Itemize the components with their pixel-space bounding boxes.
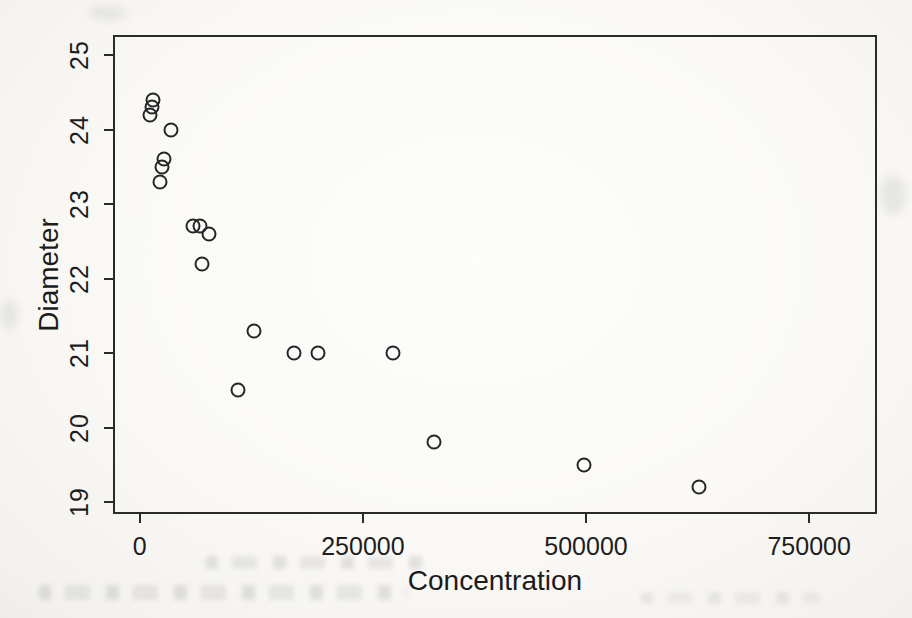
- plot-area: [113, 35, 877, 514]
- y-axis-tick-label: 24: [67, 115, 92, 145]
- data-point: [692, 480, 707, 495]
- y-axis-tick: [104, 352, 113, 354]
- x-axis-title: Concentration: [408, 567, 582, 595]
- scan-artifact: [640, 592, 820, 604]
- y-axis-tick: [104, 427, 113, 429]
- data-point: [247, 323, 262, 338]
- y-axis-tick: [104, 203, 113, 205]
- y-axis-tick: [104, 129, 113, 131]
- scan-artifact: [0, 300, 18, 330]
- scan-artifact: [88, 6, 128, 20]
- y-axis-tick-label: 22: [67, 264, 92, 294]
- scan-artifact: [38, 585, 408, 600]
- x-axis-tick: [139, 514, 141, 523]
- y-axis-tick: [104, 278, 113, 280]
- scanned-figure-page: Concentration Diameter 02500005000007500…: [0, 0, 912, 618]
- y-axis-tick-label: 19: [67, 487, 92, 517]
- data-point: [427, 435, 442, 450]
- x-axis-tick-label: 250000: [321, 534, 404, 559]
- y-axis-tick-label: 21: [67, 338, 92, 368]
- x-axis-tick: [362, 514, 364, 523]
- data-point: [195, 256, 210, 271]
- x-axis-tick-label: 750000: [767, 534, 850, 559]
- data-point: [230, 383, 245, 398]
- scan-artifact: [880, 175, 906, 215]
- x-axis-tick-label: 0: [133, 534, 147, 559]
- y-axis-tick-label: 25: [67, 40, 92, 70]
- y-axis-title: Diameter: [35, 218, 63, 332]
- y-axis-tick: [104, 501, 113, 503]
- data-point: [577, 457, 592, 472]
- data-point: [287, 346, 302, 361]
- data-point: [311, 346, 326, 361]
- y-axis-tick: [104, 54, 113, 56]
- data-point: [156, 152, 171, 167]
- data-point: [152, 174, 167, 189]
- y-axis-tick-label: 23: [67, 189, 92, 219]
- data-point: [145, 92, 160, 107]
- x-axis-tick: [808, 514, 810, 523]
- y-axis-tick-label: 20: [67, 413, 92, 443]
- data-point: [164, 122, 179, 137]
- x-axis-tick: [585, 514, 587, 523]
- data-point: [386, 346, 401, 361]
- data-point: [201, 226, 216, 241]
- x-axis-tick-label: 500000: [544, 534, 627, 559]
